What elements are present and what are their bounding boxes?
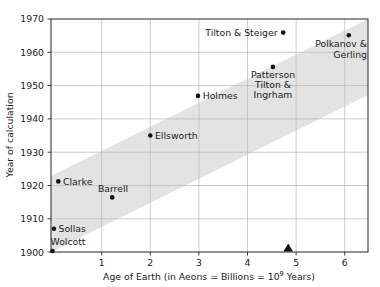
y-tick-label-1930: 1930 xyxy=(20,147,44,158)
point-label-wolcott: Wolcott xyxy=(51,236,86,247)
y-tick-label-1950: 1950 xyxy=(20,80,44,91)
data-point-polkanov-gerling[interactable] xyxy=(347,33,352,38)
x-tick-label-3: 3 xyxy=(196,257,202,268)
point-label-barrell: Barrell xyxy=(98,183,128,194)
data-point-barrell[interactable] xyxy=(110,195,115,200)
chart-svg: 1970 1960 1950 1940 1930 1920 1910 1900 … xyxy=(0,0,380,287)
x-tick-label-2: 2 xyxy=(147,257,153,268)
point-label-patterson-line3: Ingrham xyxy=(254,89,293,100)
trend-band xyxy=(51,19,368,252)
trend-band-group xyxy=(51,19,368,252)
x-tick-label-4: 4 xyxy=(245,257,251,268)
data-point-holmes[interactable] xyxy=(196,94,201,99)
x-tick-label-6: 6 xyxy=(342,257,348,268)
data-point-clarke[interactable] xyxy=(56,179,61,184)
y-tick-label-1970: 1970 xyxy=(20,13,44,24)
y-tick-label-1920: 1920 xyxy=(20,180,44,191)
data-point-sollas[interactable] xyxy=(52,226,57,231)
x-axis-title: Age of Earth (in Aeons = Billions = 109 … xyxy=(103,270,315,281)
point-label-polkanov-line2: Gerling xyxy=(333,49,367,60)
accepted-age-marker-triangle[interactable] xyxy=(283,244,293,252)
x-tick-label-5: 5 xyxy=(293,257,299,268)
y-tick-label-1960: 1960 xyxy=(20,47,44,58)
point-label-holmes: Holmes xyxy=(203,90,238,101)
y-tick-label-1940: 1940 xyxy=(20,113,44,124)
y-tick-labels: 1970 1960 1950 1940 1930 1920 1910 1900 xyxy=(20,13,44,257)
y-tick-label-1900: 1900 xyxy=(20,247,44,258)
point-label-ellsworth: Ellsworth xyxy=(155,130,198,141)
scatter-chart-figure: 1970 1960 1950 1940 1930 1920 1910 1900 … xyxy=(0,0,380,287)
point-label-clarke: Clarke xyxy=(63,176,93,187)
point-label-tilton-steiger: Tilton & Steiger xyxy=(204,27,277,38)
data-point-wolcott[interactable] xyxy=(50,249,55,254)
x-axis-title-before: Age of Earth (in Aeons = Billions = 10 xyxy=(103,271,280,282)
x-axis-title-after: Years) xyxy=(284,271,315,282)
x-tick-labels: 1 2 3 4 5 6 xyxy=(99,257,348,268)
x-tick-label-1: 1 xyxy=(99,257,105,268)
y-axis-title: Year of calculation xyxy=(4,92,15,178)
y-tick-label-1910: 1910 xyxy=(20,213,44,224)
point-label-sollas: Sollas xyxy=(59,223,86,234)
data-point-tilton-steiger[interactable] xyxy=(281,30,286,35)
data-point-ellsworth[interactable] xyxy=(148,133,153,138)
